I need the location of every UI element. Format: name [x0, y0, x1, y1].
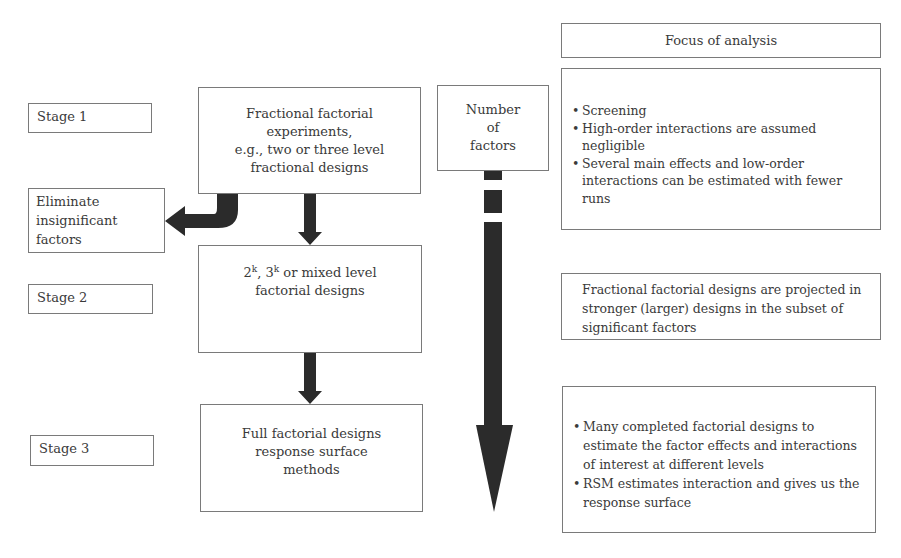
number-of-factors-arrow — [476, 170, 513, 512]
factors-line-3: factors — [470, 137, 516, 155]
factors-line-1: Number — [466, 101, 520, 119]
fractional-factorial-box: Fractional factorial experiments, e.g., … — [198, 87, 421, 194]
box-c-line-3: methods — [283, 461, 339, 479]
number-of-factors-box: Number of factors — [437, 85, 549, 171]
box-c-line-2: response surface — [255, 443, 367, 461]
eliminate-line-2: insignificant — [36, 211, 157, 230]
box-a-line-4: fractional designs — [251, 159, 369, 177]
focus-of-analysis-header: Focus of analysis — [561, 23, 881, 58]
mixed-level-factorial-box: 2k, 3k or mixed level factorial designs — [198, 245, 422, 353]
stage-1-label: Stage 1 — [28, 103, 152, 133]
focus-stage-1-list: Screening High-order interactions are as… — [570, 102, 872, 207]
eliminate-insignificant-factors-box: Eliminate insignificant factors — [28, 188, 165, 253]
focus-stage-1-box: Screening High-order interactions are as… — [561, 68, 881, 230]
focus-stage-1-item: High-order interactions are assumed negl… — [570, 120, 872, 155]
eliminate-line-3: factors — [36, 230, 157, 249]
box-a-line-1: Fractional factorial — [246, 105, 373, 123]
eliminate-line-1: Eliminate — [36, 192, 157, 211]
box-c-line-1: Full factorial designs — [242, 425, 381, 443]
focus-stage-1-item: Screening — [570, 102, 872, 120]
focus-stage-1-item: Several main effects and low-order inter… — [570, 155, 872, 208]
box-a-line-2: experiments, — [267, 123, 353, 141]
box-b-mixed-level: or mixed level — [279, 265, 376, 280]
curved-arrow-eliminate — [165, 193, 238, 236]
box-b-base-3: , 3 — [257, 265, 274, 280]
stage-3-label: Stage 3 — [30, 435, 154, 466]
focus-stage-3-item: Many completed factorial designs to esti… — [571, 417, 867, 474]
down-arrow-b-to-c — [298, 352, 322, 404]
box-a-line-3: e.g., two or three level — [235, 141, 384, 159]
factors-line-2: of — [487, 119, 500, 137]
full-factorial-box: Full factorial designs response surface … — [200, 404, 423, 512]
stage-2-label: Stage 2 — [28, 284, 153, 314]
focus-stage-3-item: RSM estimates interaction and gives us t… — [571, 474, 867, 512]
focus-stage-3-box: Many completed factorial designs to esti… — [562, 386, 876, 533]
down-arrow-a-to-b — [298, 193, 322, 245]
box-b-base-2: 2 — [243, 265, 251, 280]
focus-stage-2-box: Fractional factorial designs are project… — [561, 273, 881, 340]
box-b-line-2: factorial designs — [255, 282, 365, 300]
box-b-line-1: 2k, 3k or mixed level — [243, 264, 376, 282]
focus-stage-3-list: Many completed factorial designs to esti… — [571, 417, 867, 512]
